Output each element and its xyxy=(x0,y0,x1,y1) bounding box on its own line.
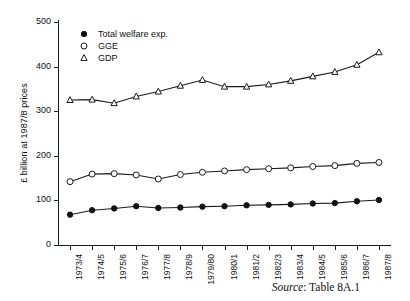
data-point xyxy=(354,199,359,204)
data-point xyxy=(156,205,161,210)
legend-item: Total welfare exp. xyxy=(76,28,168,40)
x-tick xyxy=(158,245,159,250)
data-point xyxy=(199,77,205,83)
legend-glyph xyxy=(81,31,86,36)
x-tick xyxy=(247,245,248,250)
data-point xyxy=(288,202,293,207)
x-tick xyxy=(202,245,203,250)
x-tick xyxy=(225,245,226,250)
data-point xyxy=(200,204,205,209)
x-tick-label: 1973/4 xyxy=(74,254,84,280)
series-total-welfare-exp xyxy=(67,197,381,217)
data-point xyxy=(266,202,271,207)
data-point xyxy=(155,176,161,182)
data-point xyxy=(376,49,382,55)
x-tick xyxy=(180,245,181,250)
data-point xyxy=(89,208,94,213)
data-point xyxy=(134,204,139,209)
x-tick-label: 1974/5 xyxy=(96,254,106,280)
legend-item: GGE xyxy=(76,40,168,52)
series-gge xyxy=(67,159,382,184)
data-point xyxy=(177,172,183,178)
x-tick-label: 1984/5 xyxy=(317,254,327,280)
x-tick xyxy=(379,245,380,250)
data-point xyxy=(222,204,227,209)
y-tick-label: 500 xyxy=(36,16,51,26)
data-point xyxy=(332,163,338,169)
data-point xyxy=(332,200,337,205)
legend-glyph xyxy=(81,55,87,61)
source-caption: Source: Table 8A.1 xyxy=(0,281,360,293)
data-point xyxy=(310,164,316,170)
x-tick xyxy=(70,245,71,250)
data-point xyxy=(178,205,183,210)
data-point xyxy=(133,172,139,178)
y-tick-label: 0 xyxy=(46,239,51,249)
x-tick-label: 1978/9 xyxy=(184,254,194,280)
x-tick-label: 1985/6 xyxy=(339,254,349,280)
y-tick-label: 100 xyxy=(36,194,51,204)
y-tick-label: 200 xyxy=(36,150,51,160)
x-tick-label: 1982/3 xyxy=(273,254,283,280)
x-tick-label: 1976/7 xyxy=(140,254,150,280)
x-tick-label: 1975/6 xyxy=(118,254,128,280)
data-point xyxy=(67,212,72,217)
data-point xyxy=(376,197,381,202)
data-point xyxy=(244,203,249,208)
data-point xyxy=(199,169,205,175)
x-tick-label: 1980/1 xyxy=(229,254,239,280)
data-point xyxy=(354,160,360,166)
x-tick xyxy=(92,245,93,250)
legend-label: Total welfare exp. xyxy=(98,29,168,39)
y-tick-label: 400 xyxy=(36,61,51,71)
data-point xyxy=(354,61,360,67)
data-point xyxy=(111,206,116,211)
data-point xyxy=(310,201,315,206)
data-point xyxy=(111,171,117,177)
chart-legend: Total welfare exp.GGEGDP xyxy=(76,28,168,64)
x-tick-label: 1987/8 xyxy=(383,254,393,280)
x-tick-label: 1981/2 xyxy=(251,254,261,280)
legend-glyph xyxy=(81,43,87,49)
x-tick xyxy=(114,245,115,250)
x-tick xyxy=(313,245,314,250)
legend-label: GDP xyxy=(98,53,118,63)
x-tick xyxy=(291,245,292,250)
x-tick xyxy=(136,245,137,250)
x-tick xyxy=(357,245,358,250)
data-point xyxy=(266,166,272,172)
x-tick-label: 1977/8 xyxy=(162,254,172,280)
legend-label: GGE xyxy=(98,41,118,51)
data-point xyxy=(376,159,382,165)
legend-item: GDP xyxy=(76,52,168,64)
legend-marker-filled-circle xyxy=(76,28,92,40)
legend-marker-open-triangle xyxy=(76,52,92,64)
source-word: Source xyxy=(272,281,304,293)
data-point xyxy=(67,179,73,185)
legend-marker-open-circle xyxy=(76,40,92,52)
chart-figure: £ billion at 1987/8 prices 0100200300400… xyxy=(0,0,410,301)
x-tick-label: 1983/4 xyxy=(295,254,305,280)
data-point xyxy=(89,171,95,177)
x-tick-label: 1986/7 xyxy=(361,254,371,280)
data-point xyxy=(222,168,228,174)
y-tick: 0 xyxy=(54,245,59,246)
data-point xyxy=(244,167,250,173)
source-reference: Table 8A.1 xyxy=(309,281,360,293)
y-axis-title: £ billion at 1987/8 prices xyxy=(19,33,29,233)
y-tick-label: 300 xyxy=(36,105,51,115)
data-point xyxy=(288,165,294,171)
x-tick xyxy=(269,245,270,250)
x-tick xyxy=(335,245,336,250)
